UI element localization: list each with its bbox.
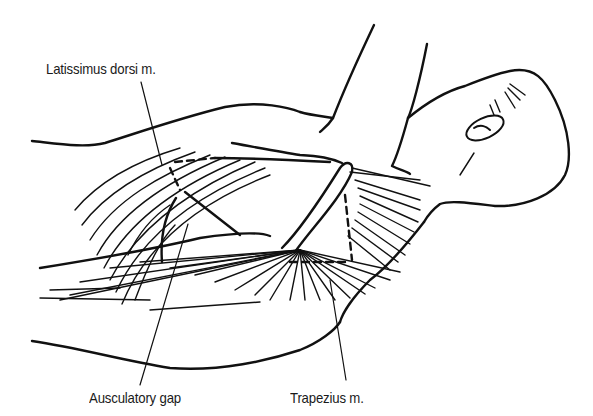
neck-lower <box>340 222 424 322</box>
scapula-top-edge <box>215 158 330 162</box>
back-upper-outline <box>32 104 300 145</box>
jaw-line <box>460 153 474 175</box>
label-ausculatory-gap: Ausculatory gap <box>89 389 181 406</box>
arm-outline-left <box>320 25 374 132</box>
leader-latissimus <box>141 82 162 165</box>
arm-outline-right <box>392 44 427 174</box>
scapula-medial-dashed <box>345 195 352 260</box>
ear-inner <box>474 126 490 130</box>
hair-lines <box>490 84 525 115</box>
ausculatory-triangle-diagonal <box>185 192 240 235</box>
lower-back-fibers <box>40 288 260 310</box>
back-lower-outline <box>32 322 340 369</box>
label-latissimus-dorsi: Latissimus dorsi m. <box>46 60 156 77</box>
head-outline <box>408 70 569 222</box>
label-trapezius: Trapezius m. <box>290 389 364 406</box>
anatomy-figure: Latissimus dorsi m. Ausculatory gap Trap… <box>0 0 593 416</box>
ear-icon <box>463 110 508 145</box>
scapular-spine <box>282 163 352 252</box>
arm-lower <box>300 112 333 118</box>
